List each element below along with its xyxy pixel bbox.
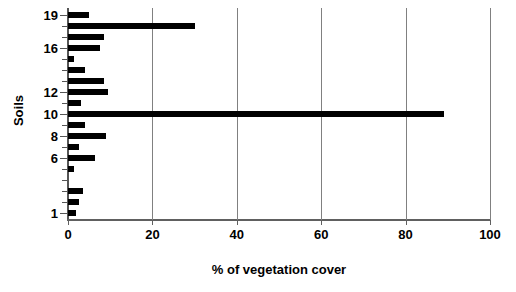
bar-soil-1 [68, 210, 76, 216]
bar-soil-3 [68, 188, 83, 194]
x-axis-title: % of vegetation cover [68, 262, 490, 277]
y-tick-label-19: 19 [18, 9, 58, 22]
bar-soil-9 [68, 122, 85, 128]
plot-area [68, 8, 490, 220]
x-tick-label-100: 100 [470, 228, 510, 241]
x-tick-label-80: 80 [386, 228, 426, 241]
x-tick-40 [237, 220, 238, 225]
x-tick-label-40: 40 [217, 228, 257, 241]
y-tick-label-8: 8 [18, 130, 58, 143]
bar-soil-13 [68, 78, 104, 84]
bar-soil-7 [68, 144, 79, 150]
x-tick-60 [321, 220, 322, 225]
y-tick-6 [60, 158, 68, 159]
y-tick-label-6: 6 [18, 152, 58, 165]
y-tick-1 [60, 213, 68, 214]
y-tick-7 [62, 147, 68, 148]
y-tick-8 [60, 136, 68, 137]
y-tick-label-16: 16 [18, 42, 58, 55]
gridline-x-100 [490, 8, 491, 220]
bar-soil-12 [68, 89, 108, 95]
y-tick-14 [62, 70, 68, 71]
y-tick-label-12: 12 [18, 86, 58, 99]
bar-soil-16 [68, 45, 100, 51]
y-tick-10 [60, 114, 68, 115]
y-tick-9 [62, 125, 68, 126]
bar-soil-17 [68, 34, 104, 40]
y-tick-2 [62, 202, 68, 203]
y-tick-4 [62, 180, 68, 181]
y-tick-5 [62, 169, 68, 170]
bar-soil-8 [68, 133, 106, 139]
bar-soil-15 [68, 56, 74, 62]
x-tick-80 [406, 220, 407, 225]
bar-soil-11 [68, 100, 81, 106]
bar-soil-19 [68, 12, 89, 18]
x-tick-100 [490, 220, 491, 225]
x-tick-20 [152, 220, 153, 225]
x-tick-0 [68, 220, 69, 225]
y-tick-13 [62, 81, 68, 82]
y-tick-label-1: 1 [18, 207, 58, 220]
y-tick-11 [62, 103, 68, 104]
chart-figure: Soils % of vegetation cover 020406080100… [0, 0, 516, 292]
bar-soil-5 [68, 166, 74, 172]
y-tick-16 [60, 48, 68, 49]
y-tick-label-10: 10 [18, 108, 58, 121]
y-tick-17 [62, 37, 68, 38]
y-tick-19 [60, 15, 68, 16]
bar-soil-2 [68, 199, 79, 205]
bar-soil-18 [68, 23, 195, 29]
x-tick-label-0: 0 [48, 228, 88, 241]
y-tick-12 [60, 92, 68, 93]
bar-soil-14 [68, 67, 85, 73]
y-tick-18 [62, 26, 68, 27]
bar-soil-10 [68, 111, 444, 117]
x-tick-label-60: 60 [301, 228, 341, 241]
x-tick-label-20: 20 [132, 228, 172, 241]
y-tick-3 [62, 191, 68, 192]
bar-soil-6 [68, 155, 95, 161]
y-tick-15 [62, 59, 68, 60]
